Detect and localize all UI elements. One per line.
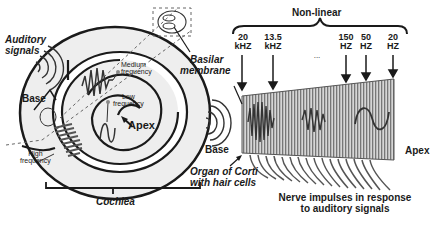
nerve-impulses-label: Nerve impulses in response to auditory s…: [270, 193, 420, 214]
apex-label-right: Apex: [405, 146, 429, 157]
low-frequency-label: Low frequency: [113, 93, 144, 108]
freq-marker-150hz: 150 HZ: [336, 33, 356, 52]
cochlea-label: Cochlea: [96, 197, 135, 208]
base-label-right: Base: [205, 145, 229, 156]
organ-of-corti-label: Organ of Corti with hair cells: [190, 167, 258, 188]
freq-marker-20hz: 20 HZ: [384, 33, 402, 52]
non-linear-brace: [233, 18, 407, 34]
medium-frequency-label: Medium frequency: [121, 61, 152, 76]
freq-marker-50hz: 50 HZ: [357, 33, 375, 52]
nerve-fibers: [250, 155, 390, 190]
high-frequency-label: High frequency: [20, 150, 51, 165]
basilar-inset-icon: [158, 11, 186, 33]
freq-marker-13-5khz: 13.5 kHZ: [260, 33, 286, 52]
freq-marker-20khz: 20 kHZ: [232, 33, 254, 52]
auditory-signals-label: Auditory signals: [5, 35, 46, 56]
freq-marker-ellipsis: ...: [310, 52, 324, 60]
basilar-membrane-label: Basilar membrane: [190, 55, 231, 76]
non-linear-label: Non-linear: [292, 8, 341, 19]
base-label-left: Base: [22, 94, 46, 105]
apex-label-left: Apex: [128, 120, 155, 132]
